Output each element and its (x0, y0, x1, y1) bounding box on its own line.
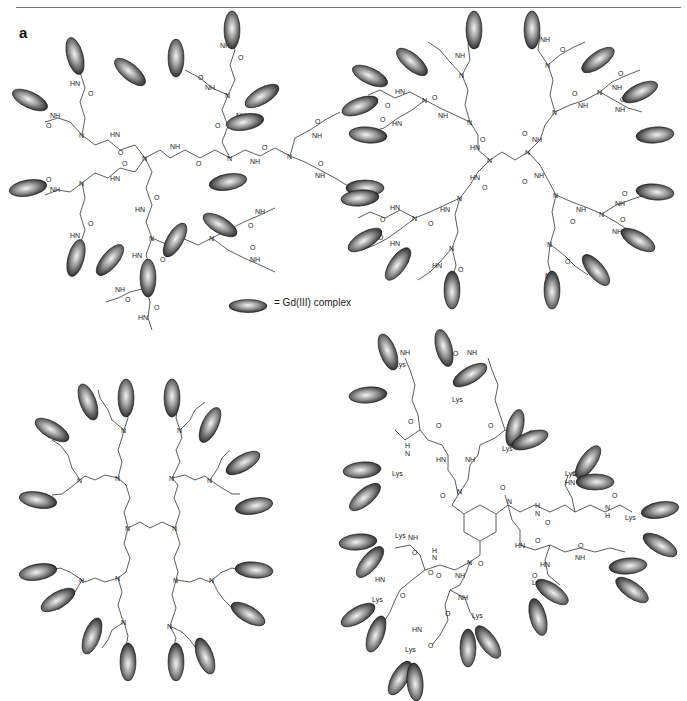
svg-text:N: N (552, 109, 557, 116)
svg-text:O: O (385, 102, 391, 109)
svg-text:N: N (525, 149, 530, 156)
svg-text:O: O (88, 90, 94, 97)
svg-text:HN: HN (70, 232, 80, 239)
svg-text:O: O (458, 266, 464, 273)
svg-text:H: H (405, 442, 410, 449)
svg-text:NH: NH (575, 554, 585, 561)
svg-text:N: N (225, 92, 230, 99)
svg-text:O: O (522, 178, 528, 185)
svg-text:H: H (432, 547, 437, 554)
svg-text:NH: NH (400, 349, 410, 356)
svg-text:O: O (154, 194, 160, 201)
svg-text:H: H (535, 502, 540, 509)
svg-text:NH: NH (250, 158, 260, 165)
dendrimer-top-left: N N N N N N N N N NH O HN O HN O O HN NH… (8, 11, 384, 330)
svg-text:O: O (560, 46, 566, 53)
svg-text:HN: HN (390, 240, 400, 247)
svg-text:N: N (599, 211, 604, 218)
svg-text:O: O (440, 492, 446, 499)
svg-text:NH: NH (438, 112, 448, 119)
svg-text:N: N (467, 119, 472, 126)
svg-text:HN: HN (540, 561, 550, 568)
svg-text:N: N (142, 155, 147, 162)
svg-text:O: O (248, 222, 254, 229)
svg-text:O: O (215, 122, 221, 129)
legend: = Gd(III) complex (228, 296, 351, 309)
svg-text:O: O (250, 244, 256, 251)
svg-text:NH: NH (170, 143, 180, 150)
svg-text:O: O (565, 258, 571, 265)
svg-text:HN: HN (395, 88, 405, 95)
svg-text:HN: HN (375, 576, 385, 583)
svg-text:Lys: Lys (392, 470, 403, 478)
svg-text:N: N (173, 577, 178, 584)
svg-text:O: O (618, 70, 624, 77)
svg-text:NH: NH (408, 534, 418, 541)
svg-text:O: O (408, 418, 414, 425)
svg-text:O: O (480, 136, 486, 143)
svg-text:O: O (46, 122, 52, 129)
svg-text:O: O (612, 492, 618, 499)
svg-text:N: N (405, 450, 410, 457)
svg-text:O: O (445, 610, 451, 617)
svg-text:HN: HN (470, 144, 480, 151)
svg-text:NH: NH (576, 206, 586, 213)
svg-text:N: N (79, 132, 84, 139)
svg-text:N: N (457, 488, 462, 495)
svg-text:Lys: Lys (452, 396, 463, 404)
svg-text:HN: HN (432, 262, 442, 269)
svg-text:HN: HN (138, 314, 148, 321)
svg-text:O: O (196, 160, 202, 167)
svg-text:NH: NH (255, 208, 265, 215)
svg-text:Lys: Lys (565, 470, 576, 478)
svg-text:NH: NH (205, 84, 215, 91)
svg-text:H: H (605, 512, 610, 519)
svg-text:N: N (77, 477, 82, 484)
svg-text:NH: NH (458, 594, 468, 601)
svg-text:HN: HN (412, 626, 422, 633)
svg-text:HN: HN (436, 456, 446, 463)
svg-text:HN: HN (392, 120, 402, 127)
svg-text:HN: HN (470, 174, 480, 181)
svg-text:O: O (428, 220, 434, 227)
svg-text:O: O (522, 130, 528, 137)
svg-text:HN: HN (565, 479, 575, 486)
svg-text:N: N (209, 235, 214, 242)
svg-text:NH: NH (532, 136, 542, 143)
svg-text:N: N (507, 498, 512, 505)
svg-text:NH: NH (578, 102, 588, 109)
svg-text:HN: HN (110, 175, 120, 182)
svg-text:O: O (570, 218, 576, 225)
svg-text:O: O (482, 184, 488, 191)
svg-text:N: N (121, 427, 126, 434)
svg-text:N: N (169, 475, 174, 482)
svg-text:NH: NH (312, 132, 322, 139)
svg-text:O: O (88, 220, 94, 227)
svg-text:O: O (262, 144, 268, 151)
svg-text:HN: HN (110, 131, 120, 138)
svg-text:Lys: Lys (405, 646, 416, 654)
svg-text:O: O (622, 190, 628, 197)
svg-text:O: O (478, 560, 484, 567)
dendrimer-figure: N N N N N N N N N NH O HN O HN O O HN NH… (0, 0, 687, 701)
svg-text:N: N (545, 62, 550, 69)
svg-text:O: O (238, 54, 244, 61)
svg-text:NH: NH (467, 349, 477, 356)
svg-text:O: O (198, 74, 204, 81)
svg-text:N: N (121, 619, 126, 626)
svg-text:N: N (535, 510, 540, 517)
svg-text:O: O (154, 304, 160, 311)
svg-text:Lys: Lys (395, 532, 406, 540)
svg-text:N: N (597, 89, 602, 96)
svg-text:O: O (46, 176, 52, 183)
svg-text:O: O (620, 216, 626, 223)
svg-text:NH: NH (250, 256, 260, 263)
svg-text:N: N (125, 525, 130, 532)
svg-text:O: O (572, 90, 578, 97)
svg-text:N: N (553, 192, 558, 199)
svg-text:NH: NH (455, 572, 465, 579)
dendrimer-top-right: N N N N N N N N N N N N N N HN O HN O NH… (340, 11, 674, 309)
svg-text:N: N (227, 155, 232, 162)
svg-text:Lys: Lys (625, 514, 636, 522)
svg-text:N: N (605, 504, 610, 511)
